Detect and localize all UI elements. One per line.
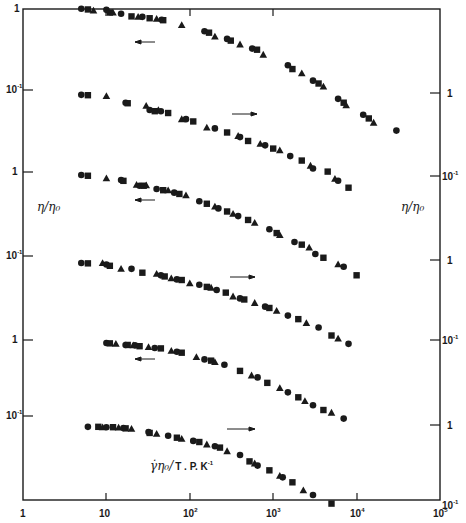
marker-square <box>264 380 270 386</box>
marker-triangle <box>182 191 190 198</box>
marker-square <box>320 407 326 413</box>
marker-circle <box>153 186 160 193</box>
marker-square <box>85 260 91 266</box>
marker-circle <box>291 239 298 246</box>
marker-circle <box>335 96 342 103</box>
marker-square <box>217 444 223 450</box>
marker-square <box>270 145 276 151</box>
y-axis-title-right: η/η₀ <box>401 200 424 214</box>
marker-circle <box>78 5 85 12</box>
marker-square <box>139 270 145 276</box>
marker-square <box>161 273 167 279</box>
marker-square <box>85 6 91 12</box>
marker-triangle <box>153 430 161 437</box>
svg-text:10-1: 10-1 <box>442 499 459 511</box>
marker-square <box>237 368 243 374</box>
marker-circle <box>310 77 317 84</box>
marker-circle <box>190 438 197 445</box>
marker-circle <box>266 226 273 233</box>
marker-square <box>206 29 212 35</box>
marker-circle <box>196 281 203 288</box>
marker-square <box>122 425 128 431</box>
marker-triangle <box>211 33 219 40</box>
marker-square <box>124 100 130 106</box>
marker-triangle <box>251 299 259 306</box>
svg-text:10-1: 10-1 <box>6 83 23 95</box>
marker-circle <box>279 474 286 481</box>
svg-text:10: 10 <box>99 508 111 519</box>
data-points <box>78 5 400 506</box>
marker-square <box>158 345 164 351</box>
marker-square <box>85 173 91 179</box>
marker-square <box>124 342 130 348</box>
x-axis-labels: 1 10 102 103 104 105 <box>20 507 448 519</box>
svg-text:1: 1 <box>20 508 26 519</box>
marker-triangle <box>186 279 194 286</box>
marker-square <box>223 289 229 295</box>
marker-triangle <box>305 244 313 251</box>
marker-circle <box>196 198 203 205</box>
marker-circle <box>312 251 319 258</box>
marker-square <box>224 129 230 135</box>
marker-square <box>85 92 91 98</box>
svg-text:10-1: 10-1 <box>442 334 459 346</box>
marker-square <box>366 115 372 121</box>
arrow-left-icon <box>135 357 155 361</box>
arrow-right-icon <box>232 112 257 116</box>
arrow-left-icon <box>135 198 155 202</box>
left-y-axis-ticks <box>23 90 33 416</box>
marker-circle <box>335 177 342 184</box>
marker-circle <box>78 172 85 179</box>
marker-circle <box>213 287 220 294</box>
svg-text:104: 104 <box>350 507 365 519</box>
marker-square <box>324 168 330 174</box>
marker-square <box>107 263 113 269</box>
marker-circle <box>78 260 85 267</box>
marker-triangle <box>145 343 153 350</box>
svg-text:10-1: 10-1 <box>6 409 23 421</box>
svg-text:10-1: 10-1 <box>6 249 23 261</box>
marker-square <box>320 255 326 261</box>
marker-circle <box>310 492 317 499</box>
marker-square <box>196 439 202 445</box>
marker-triangle <box>103 174 111 181</box>
marker-square <box>179 350 185 356</box>
svg-text:10-1: 10-1 <box>442 170 459 182</box>
marker-square <box>179 277 185 283</box>
marker-circle <box>262 142 269 149</box>
marker-circle <box>340 415 347 422</box>
marker-triangle <box>112 340 120 347</box>
marker-triangle <box>303 319 311 326</box>
marker-square <box>224 208 230 214</box>
marker-circle <box>254 462 261 469</box>
marker-square <box>107 340 113 346</box>
marker-circle <box>151 345 158 352</box>
marker-triangle <box>203 124 211 131</box>
marker-triangle <box>334 335 342 342</box>
marker-square <box>245 217 251 223</box>
marker-square <box>120 178 126 184</box>
marker-square <box>241 296 247 302</box>
marker-square <box>146 430 152 436</box>
svg-text:1: 1 <box>12 334 18 345</box>
marker-square <box>345 185 351 191</box>
marker-square <box>204 201 210 207</box>
marker-circle <box>221 361 228 368</box>
marker-circle <box>212 125 219 132</box>
marker-square <box>328 332 334 338</box>
marker-circle <box>315 324 322 331</box>
marker-circle <box>287 153 294 160</box>
marker-circle <box>285 389 292 396</box>
marker-square <box>328 500 334 506</box>
marker-square <box>245 138 251 144</box>
marker-triangle <box>117 265 125 272</box>
marker-circle <box>128 266 135 273</box>
marker-circle <box>85 424 92 431</box>
arrow-left-icon <box>135 40 155 44</box>
marker-square <box>136 343 142 349</box>
marker-square <box>299 241 305 247</box>
marker-circle <box>310 402 317 409</box>
marker-circle <box>78 92 85 99</box>
marker-triangle <box>178 21 186 28</box>
marker-square <box>128 13 134 19</box>
